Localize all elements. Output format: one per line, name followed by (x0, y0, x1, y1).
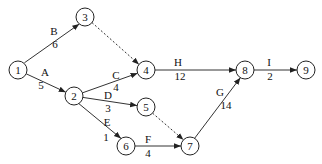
svg-text:5: 5 (143, 101, 149, 113)
node-2: 2 (65, 87, 83, 105)
activity-label-I: I (267, 56, 271, 68)
node-9: 9 (297, 61, 315, 79)
svg-text:4: 4 (143, 64, 149, 76)
svg-text:2: 2 (71, 90, 77, 102)
svg-text:6: 6 (123, 140, 129, 152)
node-1: 1 (9, 61, 27, 79)
duration-label-A: 5 (38, 79, 44, 91)
duration-label-I: 2 (267, 70, 273, 82)
duration-label-E: 1 (103, 131, 109, 143)
dummy-edge-5-7 (153, 113, 184, 140)
svg-text:7: 7 (187, 140, 193, 152)
activity-label-C: C (112, 69, 119, 81)
node-7: 7 (181, 137, 199, 155)
duration-label-H: 12 (175, 70, 186, 82)
duration-label-F: 4 (145, 147, 151, 159)
duration-label-C: 4 (113, 81, 119, 93)
duration-label-D: 3 (105, 102, 111, 114)
dummy-edge-3-4 (92, 23, 139, 65)
activity-label-B: B (50, 25, 57, 37)
edge-2-6 (79, 104, 121, 139)
activity-label-G: G (216, 86, 224, 98)
activity-label-F: F (145, 133, 151, 145)
svg-text:8: 8 (242, 64, 248, 76)
node-4: 4 (137, 61, 155, 79)
activity-label-H: H (174, 56, 182, 68)
svg-text:3: 3 (82, 11, 88, 23)
svg-text:1: 1 (15, 64, 21, 76)
node-3: 3 (76, 8, 94, 26)
node-8: 8 (236, 61, 254, 79)
duration-label-B: 6 (52, 38, 58, 50)
duration-label-G: 14 (221, 99, 233, 111)
svg-text:9: 9 (303, 64, 309, 76)
network-diagram: B 6 A 5 C 4 D 3 E 1 F 4 G 14 H 12 I 2 1 … (0, 0, 322, 164)
activity-label-E: E (104, 116, 111, 128)
node-5: 5 (137, 98, 155, 116)
node-6: 6 (117, 137, 135, 155)
activity-label-A: A (41, 66, 49, 78)
activity-label-D: D (104, 89, 112, 101)
